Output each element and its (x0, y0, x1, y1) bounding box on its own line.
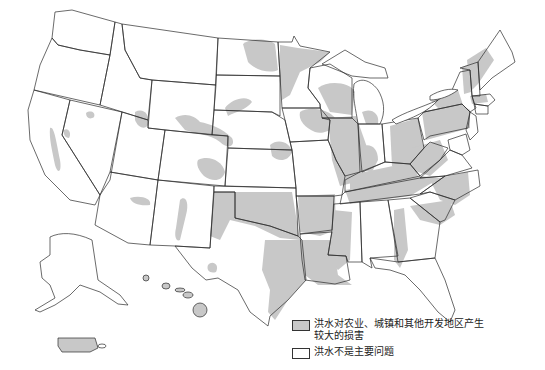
state-hawaii-big-island (193, 303, 207, 317)
flood-region-kansas (270, 141, 292, 160)
flood-region-colorado (197, 158, 225, 180)
flood-region-wisconsin (318, 83, 355, 115)
flood-region-indiana-south (360, 145, 378, 172)
flood-region-platte (175, 115, 233, 146)
state-washington (52, 10, 115, 55)
state-oregon (34, 38, 110, 105)
legend: 洪水对农业、城镇和其他开发地区产生较大的损害 洪水不是主要问题 (292, 318, 484, 363)
flood-region-georgia (394, 208, 408, 268)
state-alabama (360, 200, 398, 268)
flood-region-new-mexico (175, 198, 187, 240)
state-idaho (100, 22, 152, 120)
legend-swatch-white (292, 348, 310, 359)
state-hawaii-molokai (175, 288, 185, 292)
flood-region-michigan-south (362, 111, 378, 125)
legend-item-no-major-problem: 洪水不是主要问题 (292, 346, 484, 359)
legend-label: 洪水对农业、城镇和其他开发地区产生较大的损害 (314, 318, 484, 342)
us-flood-map (0, 0, 545, 370)
state-arizona (95, 172, 158, 245)
legend-swatch-gray (292, 320, 310, 331)
state-hawaii-oahu (162, 283, 170, 289)
flood-region-california (50, 128, 61, 171)
territory-virgin-islands (98, 344, 106, 348)
flood-region-arkansas (298, 194, 336, 236)
flood-region-oklahoma (210, 192, 300, 240)
state-michigan-up (322, 50, 388, 78)
state-florida (370, 258, 455, 322)
state-maryland-delaware (448, 134, 470, 155)
flood-region-south-dakota (225, 98, 252, 116)
state-hawaii-maui (183, 292, 193, 298)
state-montana (122, 24, 218, 85)
flood-regions (50, 40, 494, 321)
flood-region-nevada-1 (86, 112, 94, 119)
flood-region-texas-east (262, 240, 306, 320)
state-hawaii-kauai (143, 275, 149, 281)
territory-puerto-rico (58, 338, 98, 352)
state-california (28, 90, 100, 205)
flood-region-texas-west (207, 263, 217, 273)
flood-region-red-river (243, 40, 278, 72)
state-south-dakota (214, 75, 280, 116)
legend-item-flood-damage: 洪水对农业、城镇和其他开发地区产生较大的损害 (292, 318, 484, 342)
state-connecticut-ri (474, 104, 488, 114)
flood-region-arizona (130, 197, 150, 205)
state-alaska (35, 234, 128, 312)
legend-label: 洪水不是主要问题 (314, 346, 484, 358)
flood-region-nevada-2 (64, 129, 70, 138)
